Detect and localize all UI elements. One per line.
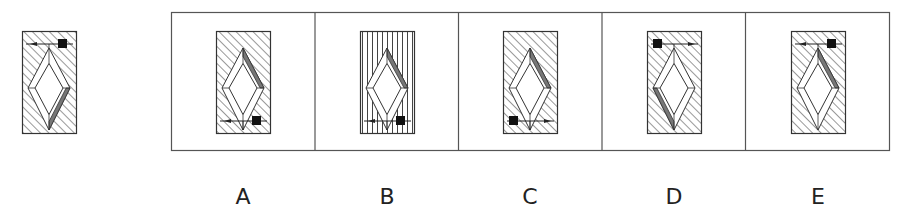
black-square <box>58 39 67 48</box>
black-square <box>252 116 261 125</box>
option-figure-e[interactable] <box>792 32 846 134</box>
black-square <box>653 39 662 48</box>
option-figure-b[interactable] <box>361 32 415 134</box>
black-square <box>396 116 405 125</box>
option-label-b[interactable]: B <box>367 184 407 210</box>
option-label-d[interactable]: D <box>654 184 694 210</box>
black-square <box>509 116 518 125</box>
option-figure-d[interactable] <box>648 32 702 134</box>
option-label-e[interactable]: E <box>798 184 838 210</box>
puzzle-canvas <box>0 0 906 214</box>
option-label-c[interactable]: C <box>510 184 550 210</box>
option-figure-a[interactable] <box>217 32 271 134</box>
black-square <box>827 39 836 48</box>
question-figure <box>23 32 77 134</box>
option-figure-c[interactable] <box>504 32 558 134</box>
option-label-a[interactable]: A <box>223 184 263 210</box>
puzzle-stage: A B C D E <box>0 0 906 214</box>
